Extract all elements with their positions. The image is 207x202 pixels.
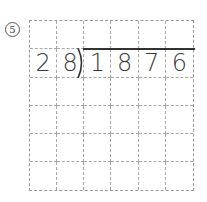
grid-cell[interactable] — [111, 106, 138, 134]
grid-cell[interactable] — [111, 78, 138, 106]
grid-cell[interactable] — [111, 21, 138, 49]
division-bracket-icon — [76, 48, 86, 78]
grid-cell[interactable]: 7 — [139, 49, 166, 78]
division-grid: 281876 — [29, 20, 194, 191]
problem-number: 5 — [5, 22, 20, 37]
grid-cell[interactable] — [30, 134, 57, 162]
grid-cell[interactable] — [30, 162, 57, 190]
grid-cell[interactable] — [30, 21, 57, 49]
grid-cell[interactable] — [57, 134, 84, 162]
grid-cell[interactable] — [84, 162, 111, 190]
grid-cell[interactable] — [57, 21, 84, 49]
grid-cell[interactable] — [139, 106, 166, 134]
grid-cell[interactable] — [166, 162, 193, 190]
grid-cell[interactable] — [111, 162, 138, 190]
grid-cell[interactable] — [84, 78, 111, 106]
grid-cell[interactable] — [139, 162, 166, 190]
grid-cell[interactable] — [30, 78, 57, 106]
grid-cell[interactable] — [84, 106, 111, 134]
division-bar — [83, 48, 195, 50]
grid-cell[interactable] — [166, 78, 193, 106]
grid-cell[interactable] — [166, 21, 193, 49]
grid-cell[interactable] — [84, 134, 111, 162]
grid-cell[interactable] — [84, 21, 111, 49]
grid-cell[interactable]: 1 — [84, 49, 111, 78]
grid-cell[interactable] — [139, 78, 166, 106]
grid-cell[interactable] — [57, 78, 84, 106]
grid-cell[interactable] — [57, 106, 84, 134]
grid-cell[interactable]: 6 — [166, 49, 193, 78]
grid-cell[interactable] — [57, 162, 84, 190]
grid-cell[interactable] — [139, 21, 166, 49]
grid-cell[interactable] — [30, 106, 57, 134]
grid-cell[interactable]: 8 — [111, 49, 138, 78]
grid-cell[interactable] — [111, 134, 138, 162]
grid-cell[interactable] — [166, 134, 193, 162]
grid-cell[interactable]: 2 — [30, 49, 57, 78]
grid-cell[interactable] — [139, 134, 166, 162]
grid-cell[interactable] — [166, 106, 193, 134]
